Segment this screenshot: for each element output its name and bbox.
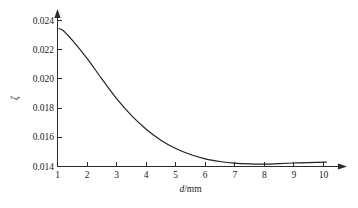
y-tick-label: 0.016 xyxy=(33,132,55,142)
x-axis-arrow-icon xyxy=(338,163,347,169)
y-tick-label: 0.022 xyxy=(33,45,55,55)
x-tick-label: 8 xyxy=(262,170,267,180)
x-tick-label: 3 xyxy=(114,170,119,180)
x-axis-title-unit: /mm xyxy=(184,184,202,194)
x-tick-label: 7 xyxy=(232,170,237,180)
chart-container: 0.014 0.016 0.018 0.020 0.022 0.024 1 2 … xyxy=(0,0,358,208)
x-tick-label: 10 xyxy=(319,170,329,180)
x-tick-labels: 1 2 3 4 5 6 7 8 9 10 xyxy=(55,170,328,180)
x-tick-label: 1 xyxy=(55,170,60,180)
x-tick-label: 2 xyxy=(85,170,90,180)
x-tick-label: 9 xyxy=(292,170,297,180)
y-tick-label: 0.014 xyxy=(33,162,55,172)
y-tick-label: 0.020 xyxy=(33,74,55,84)
x-tick-label: 5 xyxy=(173,170,178,180)
y-tick-label: 0.024 xyxy=(33,16,55,26)
y-tick-labels: 0.014 0.016 0.018 0.020 0.022 0.024 xyxy=(33,16,55,172)
x-tick-marks xyxy=(58,162,324,167)
line-chart: 0.014 0.016 0.018 0.020 0.022 0.024 1 2 … xyxy=(0,0,358,208)
x-tick-label: 6 xyxy=(203,170,208,180)
x-tick-label: 4 xyxy=(144,170,149,180)
y-axis-arrow-icon xyxy=(54,9,60,18)
data-series-line xyxy=(59,29,326,165)
y-tick-label: 0.018 xyxy=(33,103,55,113)
y-tick-marks xyxy=(58,21,63,167)
y-axis-title: ζ xyxy=(10,95,21,100)
x-axis-title: d/mm xyxy=(179,184,202,194)
